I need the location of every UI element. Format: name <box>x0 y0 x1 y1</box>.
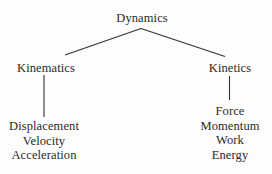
node-root-label: Dynamics <box>116 11 167 25</box>
leaf-item: Acceleration <box>9 148 79 163</box>
node-kinetics: Kinetics <box>209 58 251 77</box>
leaf-item: Velocity <box>9 134 79 149</box>
connector-root-to-kinetics <box>141 29 225 57</box>
leaf-list-kinematics: Displacement Velocity Acceleration <box>9 119 79 163</box>
leaf-item: Work <box>200 133 259 148</box>
leaf-item: Displacement <box>9 119 79 134</box>
connector-root-to-kinematics <box>65 29 141 56</box>
node-root: Dynamics <box>116 8 167 27</box>
leaf-item: Energy <box>200 148 259 163</box>
node-kinematics: Kinematics <box>17 58 75 77</box>
leaf-list-kinetics: Force Momentum Work Energy <box>200 104 259 162</box>
leaf-item: Momentum <box>200 119 259 134</box>
leaf-item: Force <box>200 104 259 119</box>
dynamics-tree-diagram: Dynamics Kinematics Kinetics Displacemen… <box>0 0 272 174</box>
node-kinetics-label: Kinetics <box>209 61 251 75</box>
node-kinematics-label: Kinematics <box>17 61 75 75</box>
